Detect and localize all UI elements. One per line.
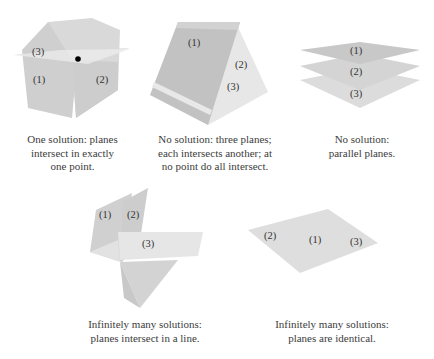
plane-label: (3) <box>350 89 362 100</box>
caption: Infinitely many solutions: planes inters… <box>60 318 230 345</box>
plane-label: (3) <box>350 237 362 248</box>
plane-label: (1) <box>99 210 111 221</box>
panel-no-solution-parallel: (1) (2) (3) No solution: parallel planes… <box>290 0 434 180</box>
plane-label: (2) <box>264 231 276 242</box>
panel-one-solution: (3) (1) (2) One solution: planes interse… <box>0 0 145 180</box>
caption: Infinitely many solutions: planes are id… <box>230 318 434 345</box>
parallel-planes-diagram <box>290 0 434 130</box>
plane-label: (2) <box>96 75 108 86</box>
caption: One solution: planes intersect in exactl… <box>0 133 145 174</box>
plane-label: (1) <box>350 46 362 57</box>
panel-infinite-identical: (2) (1) (3) Infinitely many solutions: p… <box>230 180 434 359</box>
plane-label: (3) <box>32 47 44 58</box>
panel-no-solution-tent: (1) (2) (3) No solution: three planes; e… <box>140 0 290 180</box>
caption: No solution: three planes; each intersec… <box>140 133 290 174</box>
plane-label: (3) <box>227 82 239 93</box>
plane-label: (1) <box>33 75 45 86</box>
plane-label: (2) <box>235 60 247 71</box>
plane-label: (1) <box>188 38 200 49</box>
three-planes-point-diagram <box>0 0 145 130</box>
caption: No solution: parallel planes. <box>290 133 434 160</box>
plane-label: (1) <box>309 235 321 246</box>
plane-label: (2) <box>350 67 362 78</box>
panel-infinite-line: (1) (2) (3) Infinitely many solutions: p… <box>60 180 240 359</box>
plane-label: (2) <box>127 210 139 221</box>
plane-label: (3) <box>142 239 154 250</box>
identical-planes-diagram <box>230 180 434 315</box>
tent-planes-diagram <box>140 0 290 130</box>
intersection-point <box>75 56 81 62</box>
